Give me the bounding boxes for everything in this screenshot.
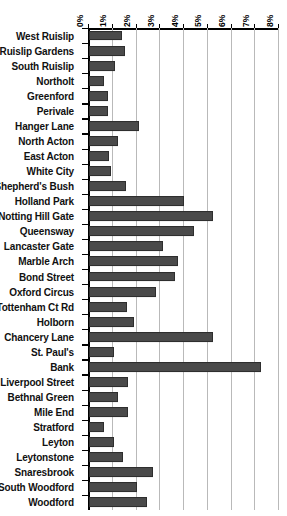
bar-row: Chancery Lane: [0, 329, 287, 344]
bar-category-label: White City: [27, 166, 74, 177]
bar: [89, 106, 108, 116]
y-axis-tick-mark: [82, 420, 88, 421]
y-axis-tick-mark: [82, 103, 88, 104]
y-axis-tick-mark: [82, 329, 88, 330]
bar-category-label: Holland Park: [15, 196, 74, 207]
bar-row: Leyton: [0, 435, 287, 450]
bar-row-group: West RuislipRuislip GardensSouth Ruislip…: [0, 28, 287, 510]
bar-category-label: Northolt: [36, 75, 74, 86]
bar-row: North Acton: [0, 133, 287, 148]
bar-category-label: St. Paul's: [31, 346, 74, 357]
y-axis-tick-mark: [82, 359, 88, 360]
x-axis-tick-label: 4%: [170, 15, 180, 27]
bar-row: Tottenham Ct Rd: [0, 299, 287, 314]
y-axis-tick-mark: [82, 133, 88, 134]
bar-category-label: Snaresbrook: [15, 467, 74, 478]
y-axis-tick-mark: [82, 179, 88, 180]
bar: [89, 241, 163, 251]
bar-category-label: Stratford: [33, 422, 74, 433]
y-axis-tick-mark: [82, 58, 88, 59]
bar: [89, 422, 104, 432]
bar-category-label: Queensway: [20, 226, 74, 237]
bar-row: Greenford: [0, 88, 287, 103]
bar: [89, 272, 175, 282]
bar-category-label: Oxford Circus: [9, 286, 74, 297]
x-axis-tick-label: 2%: [122, 15, 132, 27]
bar-category-label: Ruislip Gardens: [0, 45, 74, 56]
bar-category-label: Hanger Lane: [15, 120, 74, 131]
bar-row: Lancaster Gate: [0, 239, 287, 254]
bar: [89, 166, 111, 176]
bar: [89, 226, 194, 236]
x-axis-tick-label: 0%: [75, 15, 85, 27]
bar: [89, 302, 127, 312]
bar-category-label: Bethnal Green: [8, 392, 74, 403]
bar-row: St. Paul's: [0, 344, 287, 359]
bar-category-label: Lancaster Gate: [4, 241, 74, 252]
bar-row: Hanger Lane: [0, 118, 287, 133]
bar: [89, 287, 156, 297]
bar: [89, 407, 128, 417]
bar-row: South Ruislip: [0, 58, 287, 73]
bar-chart: 0%1%2%3%4%5%6%7%8% West RuislipRuislip G…: [0, 0, 287, 516]
bar-category-label: West Ruislip: [16, 30, 74, 41]
bar: [89, 46, 125, 56]
bar-category-label: Liverpool Street: [0, 376, 74, 387]
bar-row: Holborn: [0, 314, 287, 329]
bar-category-label: North Acton: [18, 135, 74, 146]
bar-row: Snaresbrook: [0, 465, 287, 480]
bar: [89, 76, 104, 86]
bar-category-label: Holborn: [37, 316, 74, 327]
bar-row: Bank: [0, 359, 287, 374]
y-axis-tick-mark: [82, 435, 88, 436]
x-axis-tick-label: 6%: [217, 15, 227, 27]
bar-row: Leytonstone: [0, 450, 287, 465]
y-axis-tick-mark: [82, 209, 88, 210]
x-axis-tick-label: 3%: [146, 15, 156, 27]
bar-row: Bond Street: [0, 269, 287, 284]
bar-row: Oxford Circus: [0, 284, 287, 299]
bar-category-label: Marble Arch: [18, 256, 74, 267]
bar: [89, 482, 137, 492]
y-axis-tick-mark: [82, 43, 88, 44]
bar: [89, 196, 184, 206]
bar-category-label: Greenford: [27, 90, 74, 101]
bar: [89, 317, 134, 327]
bar-category-label: Mile End: [34, 407, 74, 418]
bar: [89, 211, 213, 221]
y-axis-tick-mark: [82, 254, 88, 255]
bar-row: Holland Park: [0, 194, 287, 209]
x-axis-tick-label: 5%: [193, 15, 203, 27]
bar: [89, 437, 114, 447]
y-axis-tick-mark: [82, 465, 88, 466]
bar-category-label: East Acton: [24, 151, 74, 162]
bar-row: South Woodford: [0, 480, 287, 495]
bar-category-label: South Ruislip: [12, 60, 75, 71]
bar-category-label: Leytonstone: [16, 452, 74, 463]
y-axis-tick-mark: [82, 149, 88, 150]
bar: [89, 181, 126, 191]
bar-row: Marble Arch: [0, 254, 287, 269]
bar: [89, 362, 261, 372]
x-axis-tick-label-group: 0%1%2%3%4%5%6%7%8%: [0, 0, 287, 28]
bar: [89, 452, 123, 462]
bar-category-label: Chancery Lane: [4, 331, 74, 342]
bar-category-label: Tottenham Ct Rd: [0, 301, 74, 312]
bar-row: Northolt: [0, 73, 287, 88]
y-axis-tick-mark: [82, 480, 88, 481]
bar: [89, 332, 213, 342]
y-axis-tick-mark: [82, 450, 88, 451]
x-axis-tick-label: 1%: [98, 15, 108, 27]
bar-row: White City: [0, 164, 287, 179]
bar-row: Mile End: [0, 405, 287, 420]
y-axis-tick-mark: [82, 118, 88, 119]
bar: [89, 377, 128, 387]
bar: [89, 31, 122, 41]
bar-row: Stratford: [0, 420, 287, 435]
y-axis-tick-mark: [82, 299, 88, 300]
bar: [89, 347, 114, 357]
bar: [89, 151, 109, 161]
y-axis-tick-mark: [82, 239, 88, 240]
y-axis-tick-mark: [82, 269, 88, 270]
y-axis-tick-mark: [82, 88, 88, 89]
